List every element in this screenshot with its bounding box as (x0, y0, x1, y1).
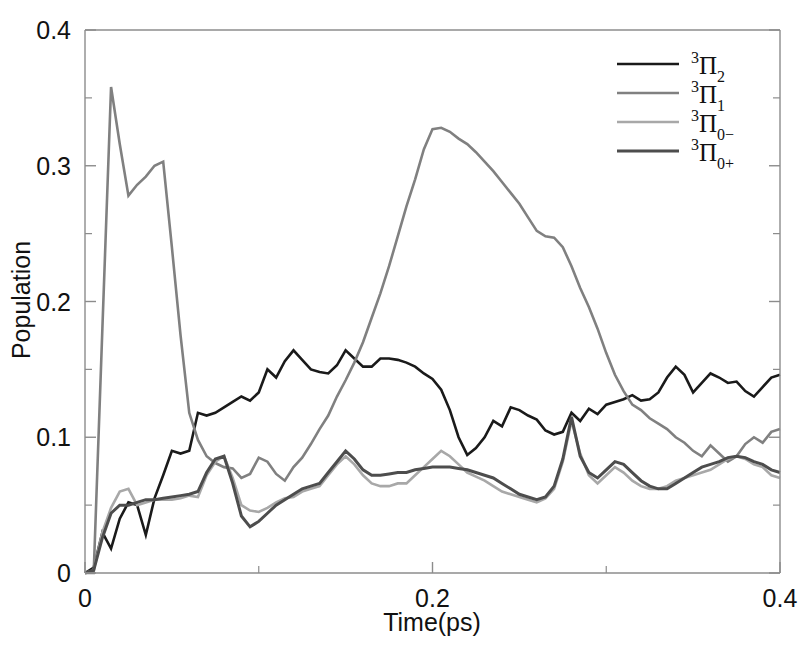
legend-superscript: 3 (691, 78, 699, 95)
legend-symbol: Π (699, 81, 717, 108)
y-ticklabel: 0.1 (36, 423, 71, 451)
series-line-3Pi2 (85, 350, 780, 573)
series-group (85, 87, 780, 573)
legend-symbol: Π (699, 139, 717, 166)
legend-symbol: Π (699, 110, 717, 137)
x-ticklabel: 0 (78, 584, 92, 612)
population-dynamics-chart: 00.10.20.30.4 00.20.4 Time(ps) Populatio… (0, 0, 809, 647)
legend-subscript: 0− (717, 126, 734, 143)
y-ticks-group (85, 30, 780, 573)
series-line-3Pi0+ (85, 417, 780, 573)
axes-group (85, 30, 780, 573)
y-ticklabel: 0.3 (36, 152, 71, 180)
x-ticks-group (85, 562, 780, 573)
series-line-3Pi0- (85, 421, 780, 573)
legend-subscript: 0+ (717, 155, 734, 172)
legend: 3Π23Π13Π0−3Π0+ (617, 49, 734, 172)
legend-superscript: 3 (691, 107, 699, 124)
series-line-3Pi1 (85, 87, 780, 573)
x-ticklabel: 0.4 (763, 584, 798, 612)
legend-subscript: 2 (717, 68, 725, 85)
chart-svg: 00.10.20.30.4 00.20.4 Time(ps) Populatio… (0, 0, 809, 647)
y-ticklabel: 0 (57, 559, 71, 587)
legend-symbol: Π (699, 52, 717, 79)
y-ticklabel: 0.2 (36, 288, 71, 316)
y-ticklabel: 0.4 (36, 16, 71, 44)
y-axis-title: Population (7, 241, 35, 359)
legend-superscript: 3 (691, 136, 699, 153)
legend-superscript: 3 (691, 49, 699, 66)
y-ticklabels-group: 00.10.20.30.4 (36, 16, 71, 587)
x-axis-title: Time(ps) (383, 608, 481, 636)
legend-subscript: 1 (717, 97, 725, 114)
